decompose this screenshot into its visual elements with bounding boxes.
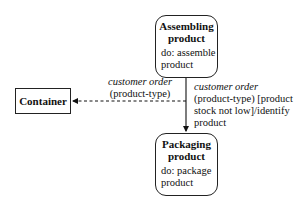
state-activity: do: package product <box>156 165 217 189</box>
state-packaging-product[interactable]: Packaging product do: package product <box>155 133 218 196</box>
label-to-container: customer order (product-type) <box>97 76 183 100</box>
state-activity: do: assemble product <box>156 47 217 71</box>
state-title: Assembling product <box>156 20 217 44</box>
object-container[interactable]: Container <box>15 88 71 114</box>
label-to-packaging: customer order (product-type) [product s… <box>194 81 293 129</box>
state-title: Packaging product <box>156 138 217 162</box>
state-assembling-product[interactable]: Assembling product do: assemble product <box>155 15 218 78</box>
